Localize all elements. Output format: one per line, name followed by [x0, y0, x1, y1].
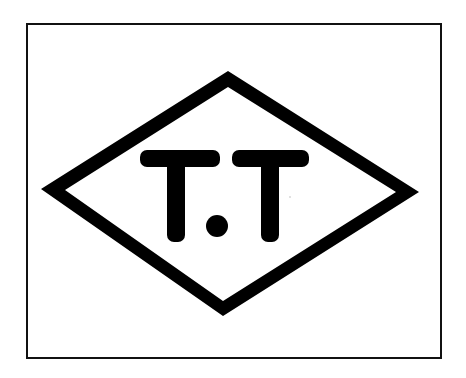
period-dot: [206, 215, 228, 237]
trademark-logo: [0, 0, 466, 378]
scan-speck: [289, 196, 291, 198]
t-left-stem: [167, 150, 185, 242]
t-right-stem: [261, 150, 279, 242]
